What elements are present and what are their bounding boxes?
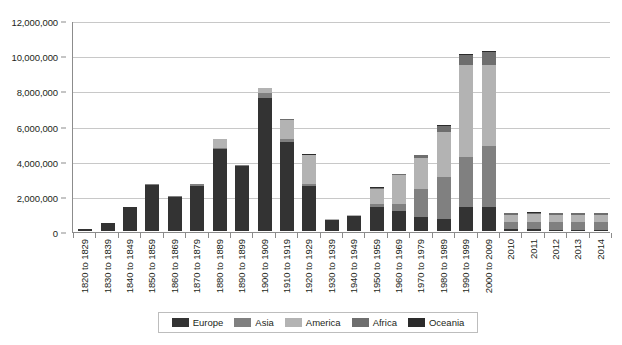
bar-stack — [459, 54, 473, 231]
bar-stack — [437, 125, 451, 231]
y-axis-tick-label: 6,000,000 — [17, 122, 58, 133]
legend-item-asia[interactable]: Asia — [234, 317, 273, 328]
x-axis-tick-label: 2010 — [505, 239, 516, 260]
bar-stack — [145, 184, 159, 231]
bar-segment-europe — [302, 186, 316, 231]
legend-item-europe[interactable]: Europe — [172, 317, 224, 328]
x-axis-tick-label: 2013 — [572, 239, 583, 260]
bar-stack — [392, 174, 406, 231]
bar-segment-europe — [145, 185, 159, 231]
bar-stack — [190, 184, 204, 231]
bar-segment-europe — [258, 98, 272, 231]
bar-stack — [101, 223, 115, 231]
bar-stack — [370, 187, 384, 231]
x-axis-tick — [589, 233, 590, 238]
legend-swatch-oceania — [408, 318, 425, 327]
x-axis-tick-label: 1820 to 1829 — [79, 239, 90, 293]
bar-segment-europe — [213, 149, 227, 231]
legend-label: America — [306, 317, 341, 328]
legend-label: Asia — [255, 317, 273, 328]
x-axis-tick — [275, 233, 276, 238]
bar-group — [74, 22, 610, 231]
bar-segment-europe — [504, 229, 518, 231]
bar-segment-america — [549, 215, 563, 222]
bar-stack — [123, 207, 137, 231]
bar-segment-europe — [78, 229, 92, 231]
bar-stack — [504, 213, 518, 231]
bar-segment-europe — [370, 207, 384, 231]
x-axis-tick-label: 2012 — [550, 239, 561, 260]
legend-item-america[interactable]: America — [285, 317, 341, 328]
x-axis-tick — [521, 233, 522, 238]
bar-stack — [280, 119, 294, 231]
bar-stack — [302, 154, 316, 231]
x-axis-tick-label: 1900 to 1909 — [259, 239, 270, 293]
x-axis-tick — [208, 233, 209, 238]
bar-segment-africa — [459, 55, 473, 65]
bar-segment-europe — [414, 217, 428, 231]
legend-label: Africa — [373, 317, 397, 328]
x-axis-tick-label: 1950 to 1959 — [371, 239, 382, 293]
x-axis-tick — [477, 233, 478, 238]
x-axis-tick — [611, 233, 612, 238]
bar-segment-america — [459, 65, 473, 157]
bar-segment-america — [213, 139, 227, 148]
legend-swatch-europe — [172, 318, 189, 327]
bar-segment-america — [370, 189, 384, 204]
bar-segment-europe — [101, 223, 115, 231]
x-axis-tick-label: 1920 to 1929 — [303, 239, 314, 293]
bar-stack — [549, 213, 563, 231]
bar-segment-europe — [571, 230, 585, 231]
legend-swatch-america — [285, 318, 302, 327]
x-axis-tick-label: 1960 to 1969 — [393, 239, 404, 293]
bar-segment-america — [392, 175, 406, 203]
bar-stack — [347, 215, 361, 231]
bar-segment-asia — [571, 222, 585, 229]
bar-segment-america — [302, 155, 316, 185]
x-axis-tick — [185, 233, 186, 238]
x-axis-tick-label: 1860 to 1869 — [169, 239, 180, 293]
x-axis-tick-label: 1930 to 1939 — [326, 239, 337, 293]
bar-segment-europe — [280, 142, 294, 231]
bar-segment-asia — [437, 177, 451, 219]
x-axis-tick-label: 1840 to 1849 — [124, 239, 135, 293]
bar-segment-asia — [392, 204, 406, 211]
plot-area — [72, 22, 610, 233]
x-axis-tick-label: 1880 to 1889 — [214, 239, 225, 293]
bar-segment-europe — [482, 207, 496, 231]
x-axis-tick — [320, 233, 321, 238]
bar-segment-europe — [347, 216, 361, 231]
x-axis-tick — [544, 233, 545, 238]
bar-segment-america — [437, 132, 451, 177]
x-axis-tick-label: 1980 to 1989 — [438, 239, 449, 293]
y-axis: 02,000,0004,000,0006,000,0008,000,00010,… — [0, 22, 66, 233]
bar-segment-europe — [527, 229, 541, 231]
y-axis-tick-label: 2,000,000 — [17, 192, 58, 203]
x-axis-tick-label: 2014 — [595, 239, 606, 260]
y-axis-tick — [61, 92, 66, 93]
bar-segment-asia — [414, 189, 428, 217]
bar-segment-europe — [168, 197, 182, 231]
bar-segment-america — [482, 65, 496, 146]
bar-stack — [571, 213, 585, 231]
bar-segment-america — [571, 215, 585, 222]
x-axis-tick — [387, 233, 388, 238]
x-axis-tick-label: 1970 to 1979 — [415, 239, 426, 293]
x-axis-tick — [432, 233, 433, 238]
legend-item-oceania[interactable]: Oceania — [408, 317, 464, 328]
bar-segment-america — [594, 215, 608, 222]
bar-stack — [78, 229, 92, 231]
bar-segment-asia — [482, 146, 496, 207]
bar-segment-asia — [504, 222, 518, 229]
y-axis-tick-label: 10,000,000 — [11, 52, 58, 63]
x-axis-tick — [454, 233, 455, 238]
y-axis-tick — [61, 57, 66, 58]
legend-item-africa[interactable]: Africa — [352, 317, 397, 328]
bar-segment-africa — [437, 126, 451, 133]
x-axis-tick — [230, 233, 231, 238]
bar-segment-europe — [459, 207, 473, 231]
y-axis-tick — [61, 22, 66, 23]
bar-stack — [258, 88, 272, 231]
bar-segment-america — [504, 215, 518, 222]
bar-stack — [482, 51, 496, 231]
